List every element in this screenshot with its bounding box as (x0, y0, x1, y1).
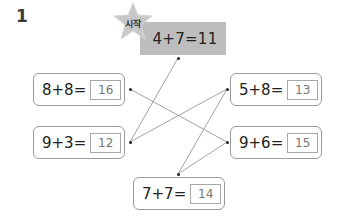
card-expression: 9+6= (239, 134, 283, 152)
left-bottom-dot[interactable] (129, 141, 132, 144)
card-expression: 8+8= (42, 81, 86, 99)
answer-box[interactable]: 13 (287, 80, 318, 100)
card-expression: 5+8= (239, 81, 283, 99)
right-top-dot[interactable] (226, 88, 229, 91)
card-expression: 9+3= (42, 134, 86, 152)
answer-box[interactable]: 14 (190, 184, 221, 204)
answer-box[interactable]: 12 (90, 133, 121, 153)
card-left-bottom: 9+3= 12 (33, 126, 125, 159)
card-bottom: 7+7= 14 (133, 177, 225, 210)
start-badge: 시작 (118, 17, 148, 30)
bottom-dot[interactable] (177, 173, 180, 176)
card-right-top: 5+8= 13 (230, 73, 322, 106)
answer-box[interactable]: 15 (287, 133, 318, 153)
card-right-bottom: 9+6= 15 (230, 126, 322, 159)
left-top-dot[interactable] (129, 88, 132, 91)
card-left-top: 8+8= 16 (33, 73, 125, 106)
start-dot[interactable] (177, 57, 180, 60)
answer-box[interactable]: 16 (90, 80, 121, 100)
right-bottom-dot[interactable] (226, 141, 229, 144)
card-expression: 7+7= (142, 185, 186, 203)
